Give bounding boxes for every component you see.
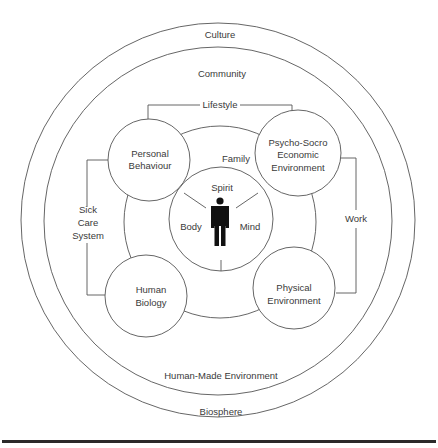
spirit-label: Spirit <box>211 182 233 193</box>
family-label: Family <box>222 153 250 164</box>
body-label: Body <box>180 221 202 232</box>
human-made-environment-label: Human-Made Environment <box>164 370 278 381</box>
node-psycho-socio-economic: Psycho-Socro Economic Environment <box>255 110 341 196</box>
psycho-socio-line2: Economic <box>277 149 319 160</box>
psycho-socio-line1: Psycho-Socro <box>268 137 327 148</box>
physical-environment-line1: Physical <box>276 282 311 293</box>
human-biology-line2: Biology <box>135 297 166 308</box>
physical-environment-line2: Environment <box>267 295 321 306</box>
central-individual-circle: Spirit Body Mind <box>169 167 273 271</box>
mind-label: Mind <box>240 221 261 232</box>
personal-behaviour-line1: Personal <box>131 148 169 159</box>
sick-care-label-line3: System <box>72 230 104 241</box>
health-mandala-diagram: Culture Community Human-Made Environment… <box>0 0 438 448</box>
community-label: Community <box>198 68 246 79</box>
node-physical-environment: Physical Environment <box>253 247 335 329</box>
node-personal-behaviour: Personal Behaviour <box>108 119 190 201</box>
lifestyle-label: Lifestyle <box>203 99 238 110</box>
sick-care-label-line2: Care <box>78 217 99 228</box>
culture-label: Culture <box>205 29 236 40</box>
psycho-socio-line3: Environment <box>271 162 325 173</box>
work-connector <box>336 158 356 293</box>
node-human-biology: Human Biology <box>105 255 187 337</box>
personal-behaviour-line2: Behaviour <box>129 160 172 171</box>
human-biology-line1: Human <box>136 284 167 295</box>
biosphere-label: Biosphere <box>200 406 243 417</box>
sick-care-label-line1: Sick <box>79 204 97 215</box>
bottom-rule-divider <box>2 440 436 443</box>
work-label: Work <box>345 213 367 224</box>
